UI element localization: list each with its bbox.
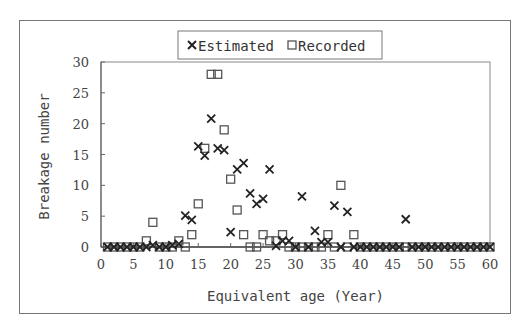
y-tick-label: 30 — [72, 55, 89, 70]
x-tick-label: 55 — [449, 257, 466, 272]
estimated-point — [259, 195, 267, 203]
recorded-point — [337, 181, 345, 189]
recorded-point — [233, 206, 241, 214]
estimated-point — [343, 208, 351, 216]
estimated-point — [272, 242, 280, 250]
y-tick-label: 25 — [72, 86, 89, 101]
estimated-point — [298, 192, 306, 200]
recorded-point — [220, 126, 228, 134]
y-tick-label: 0 — [81, 240, 89, 255]
estimated-point — [240, 159, 248, 167]
x-tick-label: 25 — [255, 257, 272, 272]
x-tick-label: 0 — [97, 257, 105, 272]
recorded-point — [324, 231, 332, 239]
estimated-point — [214, 144, 222, 152]
x-tick-label: 15 — [190, 257, 207, 272]
estimated-point — [246, 189, 254, 197]
x-axis-title: Equivalent age (Year) — [207, 288, 384, 304]
estimated-point — [253, 200, 261, 208]
estimated-point — [311, 227, 319, 235]
plot-area — [101, 62, 490, 247]
estimated-point — [220, 146, 228, 154]
x-tick-label: 50 — [417, 257, 434, 272]
recorded-point — [188, 231, 196, 239]
legend-estimated-label: Estimated — [198, 38, 274, 54]
y-tick-label: 20 — [72, 117, 89, 132]
x-tick-label: 35 — [320, 257, 337, 272]
estimated-point — [330, 202, 338, 210]
x-tick-label: 20 — [222, 257, 239, 272]
x-tick-label: 45 — [384, 257, 401, 272]
x-tick-label: 60 — [482, 257, 499, 272]
scatter-chart: 051015202530051015202530354045505560Equi… — [0, 0, 532, 332]
recorded-point — [149, 218, 157, 226]
recorded-point — [240, 231, 248, 239]
y-axis-title: Breakage number — [36, 93, 52, 219]
x-tick-label: 5 — [129, 257, 137, 272]
legend-recorded-label: Recorded — [298, 38, 365, 54]
x-tick-label: 40 — [352, 257, 369, 272]
x-tick-label: 10 — [158, 257, 175, 272]
estimated-point — [266, 165, 274, 173]
recorded-point — [350, 231, 358, 239]
recorded-point — [227, 175, 235, 183]
estimated-point — [207, 115, 215, 123]
estimated-point — [402, 215, 410, 223]
y-tick-label: 5 — [81, 209, 89, 224]
y-tick-label: 15 — [72, 148, 89, 163]
x-tick-label: 30 — [287, 257, 304, 272]
estimated-point — [227, 228, 235, 236]
recorded-point — [194, 200, 202, 208]
y-tick-label: 10 — [72, 178, 89, 193]
recorded-point — [201, 144, 209, 152]
